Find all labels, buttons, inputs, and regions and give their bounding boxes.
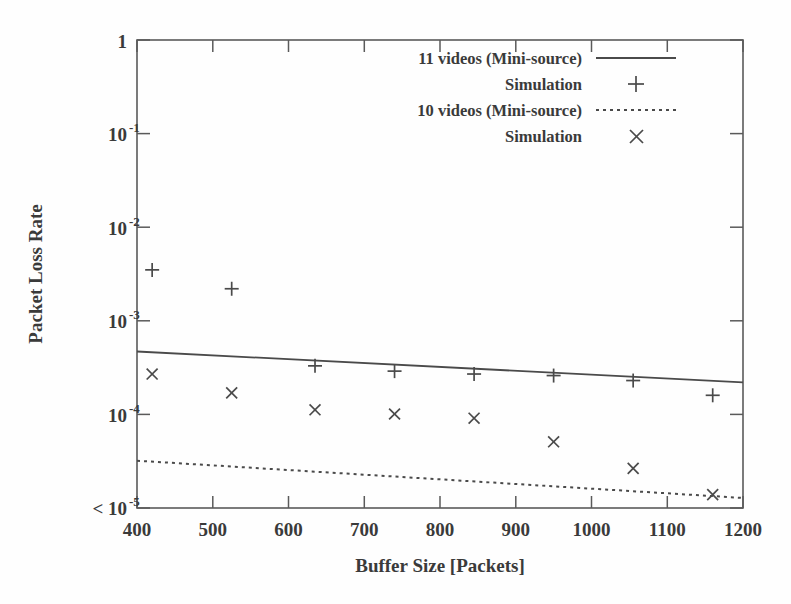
x-tick-labels: 400 500 600 700 800 900 1000 1100 1200 [123,519,762,540]
legend-label-1: Simulation [505,75,582,94]
data-point-cross-3 [389,409,400,420]
data-point-cross-5 [548,436,559,447]
y-tick-label-2-exponent: -2 [129,214,140,229]
series-0 [137,351,743,382]
y-tick-label-5-exponent: -5 [129,494,140,509]
x-tick-label-1000: 1000 [573,519,611,540]
y-tick-labels: 1 10 -1 10 -2 10 -3 10 -4 < 10 -5 [92,31,140,519]
legend: 11 videos (Mini-source) Simulation 10 vi… [417,49,676,146]
y-axis-title: Packet Loss Rate [25,204,46,343]
series-1 [145,263,720,402]
x-tick-label-500: 500 [199,519,228,540]
data-point-plus-7 [706,388,720,402]
legend-label-2: 10 videos (Mini-source) [417,101,582,120]
x-tick-label-400: 400 [123,519,152,540]
x-tick-label-1200: 1200 [724,519,762,540]
data-series-layer [137,263,743,500]
x-tick-label-600: 600 [274,519,303,540]
data-point-cross-2 [310,404,321,415]
y-tick-label-5-base: < 10 [92,498,127,519]
y-tick-label-2-base: 10 [108,218,127,239]
y-tick-label-0: 1 [118,31,128,52]
x-tick-label-800: 800 [426,519,455,540]
data-point-cross-7 [707,489,718,500]
legend-swatch-plus-marker [628,76,644,92]
legend-label-3: Simulation [505,127,582,146]
packet-loss-rate-chart: 1 10 -1 10 -2 10 -3 10 -4 < 10 -5 400 50… [0,0,791,604]
y-tick-label-4-exponent: -4 [129,401,140,416]
data-point-plus-0 [145,263,159,277]
y-tick-label-1-base: 10 [108,124,127,145]
data-point-cross-0 [147,369,158,380]
series-2 [137,461,743,498]
data-point-cross-6 [628,463,639,474]
trend-line-11-videos [137,351,743,382]
series-3 [147,369,718,501]
x-tick-label-900: 900 [502,519,531,540]
legend-swatch-cross-marker [630,130,643,143]
trend-line-10-videos [137,461,743,498]
legend-label-0: 11 videos (Mini-source) [418,49,582,68]
data-point-cross-1 [226,387,237,398]
y-tick-label-1-exponent: -1 [129,120,140,135]
data-point-plus-5 [547,369,561,383]
x-tick-label-1100: 1100 [649,519,686,540]
x-tick-label-700: 700 [350,519,379,540]
data-point-cross-4 [469,413,480,424]
data-point-plus-3 [388,364,402,378]
y-tick-label-3-base: 10 [108,311,127,332]
y-tick-label-3-exponent: -3 [129,307,140,322]
x-axis-title: Buffer Size [Packets] [355,555,525,576]
chart-figure: 1 10 -1 10 -2 10 -3 10 -4 < 10 -5 400 50… [0,0,791,604]
y-tick-label-4-base: 10 [108,405,127,426]
data-point-plus-1 [225,282,239,296]
